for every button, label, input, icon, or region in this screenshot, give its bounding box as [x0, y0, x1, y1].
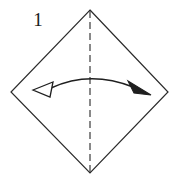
step-number-label: 1	[27, 6, 49, 34]
origami-step-diagram: 1	[0, 0, 180, 182]
